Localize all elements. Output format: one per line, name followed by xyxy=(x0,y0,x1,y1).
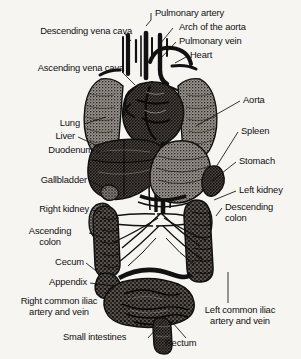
label-right-kidney: Right kidney xyxy=(12,204,89,215)
label-right-common-iliac: Right common iliac artery and vein xyxy=(4,296,114,317)
label-descending-vena-cava: Descending vena cava xyxy=(6,26,132,37)
label-duodenum: Duodenum xyxy=(14,145,93,156)
label-aorta: Aorta xyxy=(243,95,265,106)
label-appendix: Appendix xyxy=(10,277,87,288)
label-liver: Liver xyxy=(20,131,75,142)
label-ascending-colon: Ascending colon xyxy=(12,226,88,247)
label-left-kidney: Left kidney xyxy=(239,185,283,196)
label-descending-colon: Descending colon xyxy=(225,202,273,223)
heart-shape xyxy=(123,82,184,147)
small-intestines-shape xyxy=(104,278,194,327)
label-pulmonary-artery: Pulmonary artery xyxy=(155,8,224,19)
label-ascending-vena-cava: Ascending vena cava xyxy=(6,63,124,74)
label-small-intestines: Small intestines xyxy=(63,332,126,343)
label-heart: Heart xyxy=(190,50,212,61)
label-pulmonary-vein: Pulmonary vein xyxy=(179,36,242,47)
label-arch-of-the-aorta: Arch of the aorta xyxy=(179,22,246,33)
label-cecum: Cecum xyxy=(14,257,84,268)
label-stomach: Stomach xyxy=(239,156,275,167)
anatomy-figure: Descending vena cava Ascending vena cava… xyxy=(0,0,301,359)
label-left-common-iliac: Left common iliac artery and vein xyxy=(186,305,294,326)
label-gallbladder: Gallbladder xyxy=(8,175,87,186)
label-lung: Lung xyxy=(20,118,80,129)
label-spleen: Spleen xyxy=(241,126,269,137)
label-rectum: Rectum xyxy=(165,338,196,349)
